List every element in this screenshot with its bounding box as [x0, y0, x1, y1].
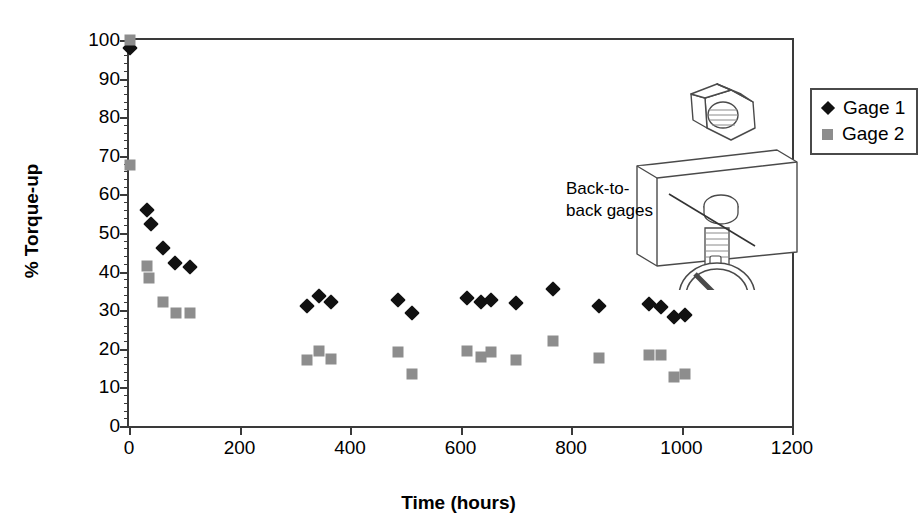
y-tick-major — [120, 426, 129, 428]
data-point-gage-2 — [461, 346, 472, 357]
data-point-gage-2 — [406, 369, 417, 380]
y-tick-major — [120, 349, 129, 351]
y-tick-major — [120, 387, 129, 389]
y-tick-minor — [124, 403, 129, 404]
x-tick-label: 800 — [555, 437, 587, 459]
data-point-gage-2 — [679, 368, 690, 379]
x-axis-title: Time (hours) — [127, 492, 790, 514]
y-tick-major — [120, 194, 129, 196]
data-point-gage-2 — [184, 308, 195, 319]
y-tick-minor — [124, 395, 129, 396]
y-tick-minor — [124, 357, 129, 358]
x-tick-label: 600 — [445, 437, 477, 459]
y-tick-label: 10 — [99, 376, 120, 398]
y-tick-minor — [124, 364, 129, 365]
x-tick-label: 1200 — [771, 437, 813, 459]
x-tick-major — [350, 426, 352, 435]
y-tick-label: 0 — [109, 415, 120, 437]
data-point-gage-1 — [545, 281, 561, 297]
data-point-gage-1 — [459, 290, 475, 306]
y-tick-minor — [124, 63, 129, 64]
data-point-gage-1 — [139, 202, 155, 218]
y-tick-minor — [124, 102, 129, 103]
y-tick-minor — [124, 318, 129, 319]
y-tick-minor — [124, 140, 129, 141]
data-point-gage-2 — [475, 351, 486, 362]
data-point-gage-2 — [547, 336, 558, 347]
y-tick-minor — [124, 202, 129, 203]
y-tick-minor — [124, 125, 129, 126]
y-tick-minor — [124, 133, 129, 134]
y-tick-label: 30 — [99, 299, 120, 321]
legend-entry: Gage 2 — [820, 121, 905, 147]
x-tick-label: 200 — [224, 437, 256, 459]
x-tick-major — [129, 426, 131, 435]
plot-area: 0102030405060708090100 02004006008001000… — [127, 38, 794, 428]
y-tick-minor — [124, 225, 129, 226]
data-point-gage-1 — [182, 259, 198, 275]
x-tick-label: 400 — [334, 437, 366, 459]
annotation-line-2: back gages — [566, 200, 653, 222]
y-tick-minor — [124, 295, 129, 296]
y-tick-minor — [124, 86, 129, 87]
y-tick-label: 70 — [99, 145, 120, 167]
y-tick-minor — [124, 418, 129, 419]
y-tick-minor — [124, 279, 129, 280]
data-point-gage-1 — [390, 292, 406, 308]
y-tick-label: 100 — [88, 29, 120, 51]
data-point-gage-1 — [591, 299, 607, 315]
y-tick-major — [120, 79, 129, 81]
y-tick-minor — [124, 341, 129, 342]
data-point-gage-1 — [653, 299, 669, 315]
data-point-gage-1 — [167, 255, 183, 271]
y-tick-label: 80 — [99, 106, 120, 128]
y-axis-title: % Torque-up — [21, 131, 43, 311]
y-tick-minor — [124, 210, 129, 211]
x-tick-major — [571, 426, 573, 435]
data-point-gage-2 — [158, 297, 169, 308]
data-point-gage-1 — [299, 298, 315, 314]
data-point-gage-2 — [326, 353, 337, 364]
data-point-gage-2 — [125, 35, 136, 46]
data-point-gage-2 — [510, 355, 521, 366]
y-tick-minor — [124, 333, 129, 334]
square-marker-icon — [822, 129, 833, 140]
y-tick-minor — [124, 55, 129, 56]
data-point-gage-2 — [393, 347, 404, 358]
y-tick-label: 40 — [99, 261, 120, 283]
legend-entry: Gage 1 — [820, 95, 905, 121]
y-tick-minor — [124, 264, 129, 265]
y-tick-minor — [124, 109, 129, 110]
y-tick-minor — [124, 287, 129, 288]
x-tick-label: 1000 — [660, 437, 702, 459]
data-point-gage-2 — [125, 160, 136, 171]
back-to-back-gages-annotation: Back-to- back gages — [566, 178, 653, 222]
data-point-gage-2 — [643, 350, 654, 361]
y-tick-minor — [124, 248, 129, 249]
y-tick-major — [120, 272, 129, 274]
y-tick-minor — [124, 218, 129, 219]
data-point-gage-1 — [404, 305, 420, 321]
y-tick-label: 60 — [99, 183, 120, 205]
y-tick-major — [120, 233, 129, 235]
y-tick-minor — [124, 179, 129, 180]
y-tick-label: 20 — [99, 338, 120, 360]
x-tick-label: 0 — [124, 437, 135, 459]
y-tick-label: 90 — [99, 68, 120, 90]
y-tick-minor — [124, 256, 129, 257]
y-tick-minor — [124, 411, 129, 412]
data-point-gage-2 — [143, 273, 154, 284]
data-point-gage-2 — [301, 355, 312, 366]
data-point-gage-1 — [677, 307, 693, 323]
y-tick-minor — [124, 187, 129, 188]
y-tick-minor — [124, 380, 129, 381]
y-tick-minor — [124, 171, 129, 172]
data-point-gage-2 — [486, 346, 497, 357]
data-point-gage-2 — [314, 346, 325, 357]
y-tick-minor — [124, 372, 129, 373]
data-point-gage-1 — [484, 292, 500, 308]
data-point-gage-1 — [508, 295, 524, 311]
y-tick-minor — [124, 326, 129, 327]
y-tick-major — [120, 310, 129, 312]
